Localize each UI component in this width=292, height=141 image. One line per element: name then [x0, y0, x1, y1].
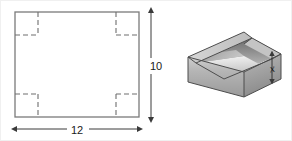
- box-folding-diagram: 12 10: [0, 0, 292, 141]
- dimension-width-label: 12: [71, 124, 83, 136]
- sheet-outline: [15, 12, 139, 117]
- figure-container: 12 10: [0, 0, 292, 141]
- dimension-height-label: 10: [150, 60, 162, 72]
- flat-sheet-group: [15, 12, 139, 117]
